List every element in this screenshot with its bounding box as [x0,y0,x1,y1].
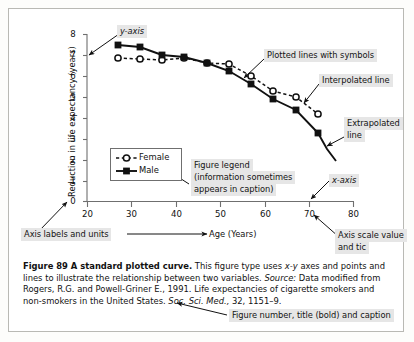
caption-figure-number-title: Figure 89 A standard plotted curve. [23,261,192,271]
caption-xy-italic: x-y [285,261,298,271]
x-tick-60: 60 [254,209,277,219]
legend-entry-female: Female [139,152,169,162]
chart-figure: Reduction in life expectancy (years) 8 7… [9,9,405,251]
annotation-figure-legend-3: appears in caption) [191,183,276,196]
annotation-extrapolated-line-2: line [344,129,365,142]
annotation-figure-legend-1: Figure legend [191,159,253,172]
caption-text-1: This figure type uses [192,261,285,271]
y-tick-2: 2 [67,155,79,165]
annotation-figure-number-caption: Figure number, title (bold) and caption [229,309,394,322]
figure-frame: Reduction in life expectancy (years) 8 7… [8,8,404,332]
annotation-interpolated-line: Interpolated line [319,74,393,87]
leader-axis-labels [39,202,67,231]
series-male-extrapolated-line [318,133,336,161]
x-axis-title: Age (Years) [209,229,257,239]
y-tick-7: 7 [67,50,79,60]
leader-x-axis [311,181,329,199]
chart-legend[interactable]: Female Male [110,148,182,181]
y-tick-0: 0 [67,196,79,206]
x-tick-80: 80 [342,209,365,219]
y-axis [83,34,87,202]
annotation-axis-labels-units: Axis labels and units [21,228,111,241]
legend-entry-male: Male [139,165,159,175]
annotation-x-axis: x-axis [329,174,359,187]
leader-extrapolated [327,137,344,146]
y-tick-6: 6 [67,71,79,81]
annotation-axis-scale-2: and tic [335,241,369,254]
y-tick-1: 1 [67,176,79,186]
leader-interpolated [304,84,319,103]
x-tick-70: 70 [298,209,321,219]
annotation-y-axis: y-axis [117,25,147,38]
figure-page: Reduction in life expectancy (years) 8 7… [0,0,414,342]
caption-source-label: Source: [264,273,296,283]
leader-y-axis [89,34,119,55]
x-tick-40: 40 [165,209,188,219]
y-tick-4: 4 [67,113,79,123]
annotation-plotted-lines: Plotted lines with symbols [264,49,377,62]
x-axis [87,202,354,208]
x-tick-50: 50 [209,209,232,219]
annotation-figure-legend-2: (information sometimes [191,171,295,184]
x-tick-20: 20 [76,209,99,219]
annotation-extrapolated-line-1: Extrapolated [344,117,403,130]
annotation-axis-scale-1: Axis scale value [335,229,407,242]
y-tick-8: 8 [67,29,79,39]
y-tick-3: 3 [67,134,79,144]
x-tick-30: 30 [120,209,143,219]
y-tick-5: 5 [67,92,79,102]
